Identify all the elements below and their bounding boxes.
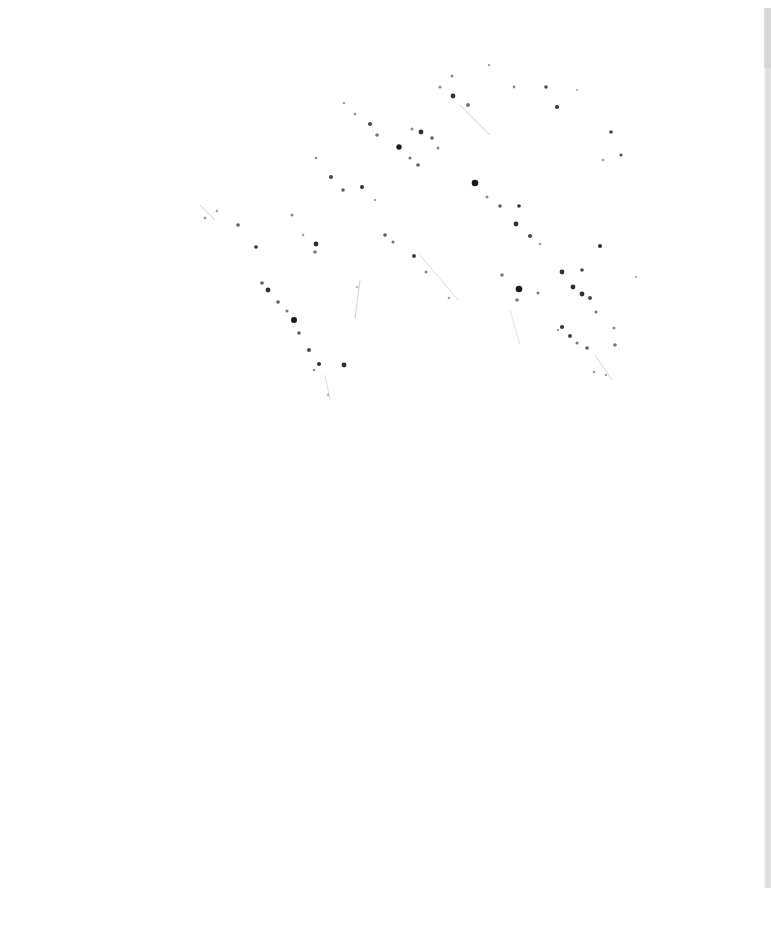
ink-speckle <box>451 94 456 99</box>
ink-stroke <box>420 255 458 300</box>
ink-speckle <box>448 297 451 300</box>
ink-stroke <box>200 205 215 220</box>
ink-speckle <box>392 241 395 244</box>
ink-speckle <box>396 144 401 149</box>
ink-stroke <box>460 105 490 135</box>
ink-speckle <box>576 342 579 345</box>
ink-speckle <box>486 196 489 199</box>
ink-speckle <box>560 325 564 329</box>
ink-speckle <box>204 217 207 220</box>
ink-speckle <box>609 130 613 134</box>
ink-speckle <box>588 296 592 300</box>
scanned-page <box>0 0 771 925</box>
ink-speckle <box>317 362 321 366</box>
ink-speckle <box>313 369 316 372</box>
ink-speckle <box>368 122 372 126</box>
ink-speckle <box>466 103 470 107</box>
ink-stroke <box>355 280 360 318</box>
ink-speckle <box>216 210 219 213</box>
ink-speckle <box>598 244 602 248</box>
ink-speckle <box>580 268 584 272</box>
ink-speckle <box>500 273 504 277</box>
page-right-edge-shadow <box>764 8 771 68</box>
page-right-edge <box>764 8 771 888</box>
ink-speckle <box>315 157 318 160</box>
ink-speckle <box>297 331 301 335</box>
ink-speckle <box>537 292 540 295</box>
ink-speckle <box>302 234 305 237</box>
ink-speckle <box>516 286 523 293</box>
ink-speckle <box>341 188 345 192</box>
ink-speckle <box>383 233 387 237</box>
ink-speckle <box>374 199 377 202</box>
ink-speckle <box>576 89 578 91</box>
ink-speckle-field <box>0 0 771 925</box>
ink-speckle <box>236 223 240 227</box>
ink-speckle <box>260 281 264 285</box>
ink-speckle <box>286 310 289 313</box>
ink-speckle <box>419 130 424 135</box>
ink-speckle <box>266 288 271 293</box>
ink-speckle <box>425 271 428 274</box>
ink-speckle <box>539 243 542 246</box>
ink-speckle <box>580 292 585 297</box>
ink-speckle <box>557 329 560 332</box>
ink-speckle <box>327 394 329 396</box>
ink-speckle <box>593 371 596 374</box>
ink-speckle <box>314 242 319 247</box>
ink-speckle <box>585 346 589 350</box>
ink-speckle <box>276 300 280 304</box>
ink-speckle <box>514 222 519 227</box>
ink-speckle <box>291 317 297 323</box>
ink-speckle <box>602 159 605 162</box>
ink-stroke <box>510 310 520 345</box>
ink-speckle <box>354 113 357 116</box>
ink-speckle <box>313 250 317 254</box>
ink-speckle <box>513 86 516 89</box>
ink-speckle <box>515 298 519 302</box>
ink-speckle <box>528 234 532 238</box>
ink-speckle <box>517 204 521 208</box>
ink-speckle <box>329 175 333 179</box>
ink-speckle <box>451 75 454 78</box>
ink-stroke <box>325 375 330 400</box>
ink-speckle <box>343 102 345 104</box>
ink-stroke <box>595 355 612 380</box>
ink-speckle <box>555 105 559 109</box>
ink-speckle <box>560 270 565 275</box>
ink-speckle <box>356 286 358 288</box>
ink-speckle <box>430 136 434 140</box>
ink-speckle <box>342 363 347 368</box>
ink-speckle <box>254 245 258 249</box>
ink-speckle <box>307 348 311 352</box>
ink-speckle <box>439 86 442 89</box>
ink-speckle <box>568 334 572 338</box>
ink-speckle <box>620 154 623 157</box>
ink-speckle <box>412 254 416 258</box>
ink-speckle <box>416 163 420 167</box>
ink-speckle <box>408 156 411 159</box>
ink-speckle <box>375 133 379 137</box>
ink-speckle <box>613 343 617 347</box>
ink-speckle <box>488 64 490 66</box>
ink-speckle <box>544 85 548 89</box>
ink-speckle <box>411 128 414 131</box>
ink-speckle <box>472 180 479 187</box>
ink-speckle <box>595 311 598 314</box>
ink-speckle <box>498 204 502 208</box>
ink-speckle <box>613 327 616 330</box>
ink-speckle <box>360 185 364 189</box>
ink-speckle <box>291 214 294 217</box>
ink-speckle <box>635 276 637 278</box>
ink-speckle <box>437 147 440 150</box>
ink-speckle <box>571 285 576 290</box>
ink-speckle <box>605 374 608 377</box>
